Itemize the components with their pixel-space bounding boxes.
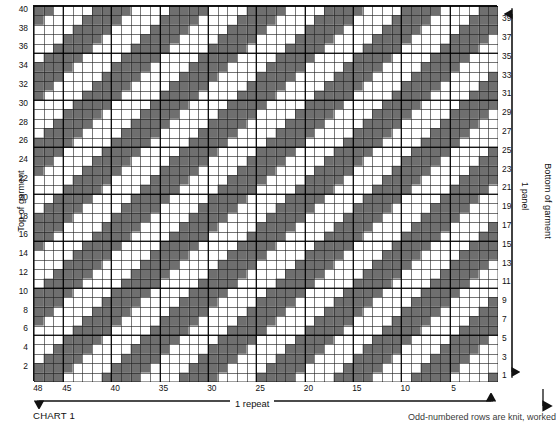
column-number: 15 bbox=[346, 383, 368, 393]
chart-figure: 403836343230282624222018161412108642 393… bbox=[0, 0, 556, 422]
row-number-left: 34 bbox=[2, 61, 28, 70]
row-number-left: 10 bbox=[2, 287, 28, 296]
chart-note: Odd-numbered rows are knit, worked bbox=[408, 412, 556, 422]
row-number-left: 4 bbox=[2, 343, 28, 352]
row-number-left: 40 bbox=[2, 5, 28, 14]
row-number-left: 36 bbox=[2, 42, 28, 51]
column-number: 45 bbox=[56, 383, 78, 393]
row-number-left: 38 bbox=[2, 24, 28, 33]
row-number-left: 28 bbox=[2, 118, 28, 127]
knitting-chart-grid bbox=[33, 5, 497, 381]
row-number-left: 2 bbox=[2, 362, 28, 371]
chart-cells-canvas bbox=[34, 6, 498, 382]
row-number-left: 6 bbox=[2, 324, 28, 333]
panel-label: 1 panel bbox=[519, 171, 531, 221]
column-number: 20 bbox=[298, 383, 320, 393]
column-number: 25 bbox=[249, 383, 271, 393]
column-number: 30 bbox=[201, 383, 223, 393]
row-number-left: 32 bbox=[2, 80, 28, 89]
row-number-left: 30 bbox=[2, 99, 28, 108]
row-number-left: 14 bbox=[2, 249, 28, 258]
row-number-left: 12 bbox=[2, 268, 28, 277]
column-number: 5 bbox=[443, 383, 465, 393]
column-number: 35 bbox=[153, 383, 175, 393]
column-number: 40 bbox=[104, 383, 126, 393]
bottom-of-garment-label: Bottom of garment bbox=[543, 151, 553, 251]
top-of-garment-label: Top of garment bbox=[16, 156, 26, 246]
direction-down-arrow-icon bbox=[534, 388, 554, 414]
repeat-label: 1 repeat bbox=[230, 398, 274, 409]
row-number-left: 26 bbox=[2, 136, 28, 145]
column-number: 10 bbox=[394, 383, 416, 393]
column-number: 48 bbox=[27, 383, 49, 393]
chart-title: CHART 1 bbox=[33, 410, 75, 421]
row-number-left: 8 bbox=[2, 306, 28, 315]
